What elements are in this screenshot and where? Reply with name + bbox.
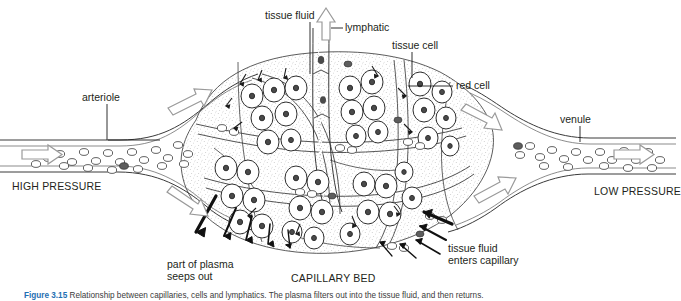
figure-caption-number: Figure 3.15	[24, 291, 67, 300]
label-arteriole: arteriole	[82, 92, 120, 104]
label-lymphatic: lymphatic	[345, 22, 389, 34]
label-high-pressure: HIGH PRESSURE	[12, 181, 102, 193]
label-enters-line2: enters capillary	[448, 255, 519, 267]
label-tissue-cell: tissue cell	[392, 40, 438, 52]
label-plasma-seeps-line2: seeps out	[167, 271, 213, 283]
figure-caption: Figure 3.15 Relationship between capilla…	[24, 291, 664, 301]
figure-caption-text: Relationship between capillaries, cells …	[70, 291, 484, 300]
label-capillary-bed: CAPILLARY BED	[291, 273, 376, 285]
label-enters-line1: tissue fluid	[448, 243, 498, 255]
label-red-cell: red cell	[456, 80, 490, 92]
label-tissue-fluid-top: tissue fluid	[265, 10, 315, 22]
label-plasma-seeps-line1: part of plasma	[167, 259, 234, 271]
label-venule: venule	[560, 114, 591, 126]
label-low-pressure: LOW PRESSURE	[594, 186, 681, 198]
